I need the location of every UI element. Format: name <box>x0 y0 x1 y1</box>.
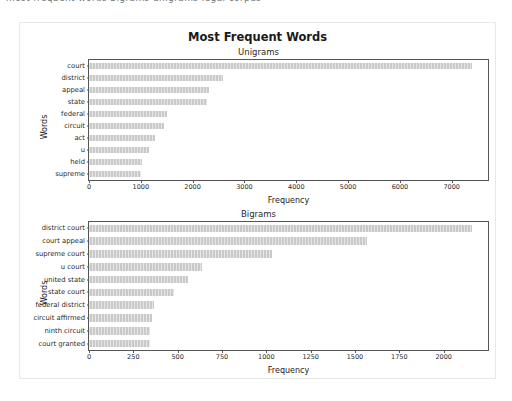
bar-row[interactable]: appeal <box>89 87 488 94</box>
x-tick-mark <box>89 350 90 353</box>
x-axis-label-bigrams: Frequency <box>88 366 489 375</box>
bar[interactable] <box>89 301 154 308</box>
y-tick-mark <box>87 65 90 66</box>
x-tick-mark <box>266 350 267 353</box>
bar-row[interactable]: district <box>89 75 488 82</box>
bar-row[interactable]: circuit affirmed <box>89 314 488 321</box>
x-tick-mark <box>193 180 194 183</box>
x-tick-mark <box>222 350 223 353</box>
bar-row[interactable]: ninth circuit <box>89 327 488 334</box>
x-tick-mark <box>400 180 401 183</box>
subplot-bigrams: Bigrams Words district courtcourt appeal… <box>20 209 497 377</box>
y-axis-label-unigrams: Words <box>40 115 49 140</box>
x-tick-mark <box>452 180 453 183</box>
bar[interactable] <box>89 237 367 244</box>
chart-figure: Most Frequent Words Unigrams Words court… <box>19 22 496 379</box>
bar-row[interactable]: federal <box>89 111 488 118</box>
y-tick-label: appeal <box>62 86 85 94</box>
y-tick-label: u <box>81 146 85 154</box>
bar-row[interactable]: held <box>89 159 488 166</box>
bar-row[interactable]: state <box>89 99 488 106</box>
y-tick-mark <box>87 330 90 331</box>
bar[interactable] <box>89 63 472 70</box>
y-tick-label: state <box>68 98 85 106</box>
y-tick-mark <box>87 137 90 138</box>
y-tick-mark <box>87 266 90 267</box>
y-tick-mark <box>87 89 90 90</box>
y-tick-label: court appeal <box>42 237 85 245</box>
bar-row[interactable]: circuit <box>89 123 488 130</box>
y-tick-label: supreme <box>55 170 85 178</box>
y-tick-mark <box>87 149 90 150</box>
bar-row[interactable]: district court <box>89 225 488 232</box>
y-tick-mark <box>87 317 90 318</box>
y-tick-mark <box>87 241 90 242</box>
bar[interactable] <box>89 135 155 142</box>
bar[interactable] <box>89 87 209 94</box>
clipped-header-strip: most frequent words bigrams unigrams leg… <box>0 0 512 9</box>
x-tick-mark <box>355 350 356 353</box>
y-tick-mark <box>87 125 90 126</box>
y-tick-label: district <box>62 74 86 82</box>
y-tick-label: circuit affirmed <box>33 314 85 322</box>
bar[interactable] <box>89 289 174 296</box>
y-tick-label: court granted <box>38 340 85 348</box>
x-tick-mark <box>89 180 90 183</box>
bar[interactable] <box>89 75 223 82</box>
bar[interactable] <box>89 314 152 321</box>
figure-title: Most Frequent Words <box>20 30 495 44</box>
bar-row[interactable]: court granted <box>89 340 488 347</box>
bar[interactable] <box>89 327 150 334</box>
y-tick-mark <box>87 279 90 280</box>
bar[interactable] <box>89 263 202 270</box>
y-tick-label: court <box>67 62 85 70</box>
bar[interactable] <box>89 171 141 178</box>
bars-bigrams: district courtcourt appealsupreme courtu… <box>89 222 488 350</box>
bar-row[interactable]: supreme <box>89 171 488 178</box>
y-tick-label: circuit <box>64 122 85 130</box>
y-tick-label: federal district <box>35 301 85 309</box>
y-tick-label: act <box>74 134 85 142</box>
bar[interactable] <box>89 225 472 232</box>
x-axis-label-unigrams: Frequency <box>88 196 489 205</box>
bar[interactable] <box>89 159 142 166</box>
y-tick-mark <box>87 305 90 306</box>
y-tick-label: united state <box>44 276 85 284</box>
y-tick-label: state court <box>48 288 85 296</box>
bar[interactable] <box>89 340 150 347</box>
bars-unigrams: courtdistrictappealstatefederalcircuitac… <box>89 60 488 180</box>
y-tick-mark <box>87 292 90 293</box>
y-tick-mark <box>87 343 90 344</box>
bar-row[interactable]: federal district <box>89 301 488 308</box>
x-tick-mark <box>244 180 245 183</box>
y-tick-mark <box>87 113 90 114</box>
subplot-unigrams: Unigrams Words courtdistrictappealstatef… <box>20 47 497 207</box>
bar[interactable] <box>89 111 167 118</box>
x-tick-mark <box>311 350 312 353</box>
x-tick-mark <box>296 180 297 183</box>
y-tick-label: held <box>70 158 85 166</box>
bar[interactable] <box>89 250 272 257</box>
bar-row[interactable]: supreme court <box>89 250 488 257</box>
bar-row[interactable]: court appeal <box>89 237 488 244</box>
plot-area-unigrams: courtdistrictappealstatefederalcircuitac… <box>88 59 489 181</box>
y-tick-mark <box>87 253 90 254</box>
bar-row[interactable]: act <box>89 135 488 142</box>
bar[interactable] <box>89 276 188 283</box>
bar-row[interactable]: state court <box>89 289 488 296</box>
x-tick-mark <box>141 180 142 183</box>
y-tick-mark <box>87 101 90 102</box>
y-tick-mark <box>87 228 90 229</box>
bar-row[interactable]: court <box>89 63 488 70</box>
bar-row[interactable]: u court <box>89 263 488 270</box>
bar-row[interactable]: united state <box>89 276 488 283</box>
subplot-title-bigrams: Bigrams <box>20 209 497 219</box>
plot-area-bigrams: district courtcourt appealsupreme courtu… <box>88 221 489 351</box>
bar[interactable] <box>89 99 207 106</box>
bar[interactable] <box>89 123 164 130</box>
y-tick-mark <box>87 173 90 174</box>
subplot-title-unigrams: Unigrams <box>20 47 497 57</box>
bar-row[interactable]: u <box>89 147 488 154</box>
bar[interactable] <box>89 147 149 154</box>
clipped-header-text: most frequent words bigrams unigrams leg… <box>6 0 261 3</box>
